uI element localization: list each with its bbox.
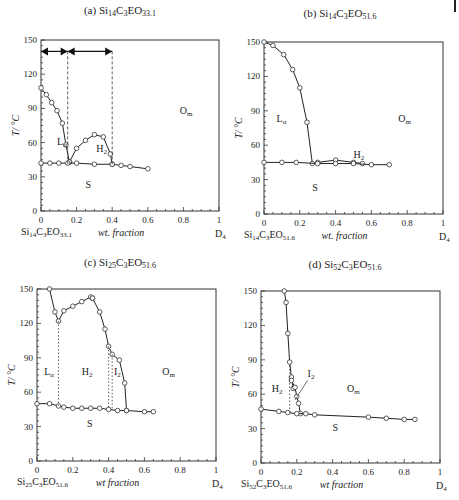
label-leader-line xyxy=(295,380,308,399)
x-axis-label: wt fraction xyxy=(320,479,364,490)
data-point xyxy=(117,358,122,363)
x-tick-label: 0.6 xyxy=(366,218,378,228)
data-point xyxy=(305,120,310,125)
data-point xyxy=(79,406,84,411)
y-axis-label: T/ °C xyxy=(6,364,17,386)
x-tick-label: 0.8 xyxy=(399,467,411,477)
panel-d: (d) Si52C3EO51.600.20.40.60.810306090120… xyxy=(230,258,447,493)
region-label-I2: I2 xyxy=(114,366,121,379)
panel-title: (d) Si52C3EO51.6 xyxy=(309,258,382,272)
y-tick-label: 60 xyxy=(28,138,38,148)
x-tick-label: 0.4 xyxy=(103,465,115,475)
x-tick-label: 0.8 xyxy=(402,218,414,228)
data-point xyxy=(351,161,356,166)
plot-frame xyxy=(41,40,219,211)
data-point xyxy=(282,289,287,294)
data-point xyxy=(97,406,102,411)
data-point xyxy=(298,86,303,91)
data-point xyxy=(35,401,40,406)
data-point xyxy=(55,108,60,113)
region-label-I2: I2 xyxy=(308,368,315,381)
data-point xyxy=(49,100,54,105)
x-tick-label: 0 xyxy=(259,467,264,477)
data-point xyxy=(60,121,65,126)
data-point xyxy=(71,304,76,309)
x-tick-label: 1 xyxy=(217,215,222,225)
data-point xyxy=(142,409,147,414)
phase-boundary-line xyxy=(37,404,153,412)
data-point xyxy=(277,409,282,414)
y-tick-label: 120 xyxy=(20,318,34,328)
x-tick-label: 0 xyxy=(35,465,40,475)
region-label-Om: Om xyxy=(398,113,411,126)
x-tick-label: 1 xyxy=(438,467,443,477)
data-point xyxy=(44,92,49,97)
data-point xyxy=(124,408,129,413)
y-tick-label: 90 xyxy=(28,103,38,113)
data-point xyxy=(333,161,338,166)
data-point xyxy=(290,67,295,72)
data-point xyxy=(287,360,292,365)
y-tick-label: 0 xyxy=(253,458,258,468)
data-point xyxy=(47,287,52,292)
data-point xyxy=(48,161,53,166)
panel-b: (b) Si14C3EO51.600.20.40.60.810306090120… xyxy=(233,7,450,244)
x-tick-label: 0 xyxy=(39,215,44,225)
x-tick-label: 0.4 xyxy=(107,215,119,225)
y-tick-label: 60 xyxy=(248,389,258,399)
data-point xyxy=(284,300,289,305)
y-tick-label: 120 xyxy=(24,69,38,79)
data-point xyxy=(286,410,291,415)
region-label-H2: H2 xyxy=(354,149,365,162)
x-left-component: Si52C3EO51.6 xyxy=(241,478,293,491)
phase-boundary-line xyxy=(284,291,293,388)
data-point xyxy=(103,327,108,332)
data-point xyxy=(262,160,267,165)
y-tick-label: 150 xyxy=(247,37,261,47)
data-point xyxy=(413,417,418,422)
data-point xyxy=(115,408,120,413)
data-point xyxy=(79,299,84,304)
x-left-component: Si14C3EO33.1 xyxy=(21,226,73,239)
y-tick-label: 120 xyxy=(244,320,258,330)
data-point xyxy=(369,162,374,167)
data-point xyxy=(122,381,127,386)
data-point xyxy=(92,132,97,137)
data-point xyxy=(88,406,93,411)
x-tick-label: 0.4 xyxy=(327,467,339,477)
x-tick-label: 0 xyxy=(262,218,267,228)
x-axis-label: wt. fraction xyxy=(98,227,144,238)
y-axis-label: T/ °C xyxy=(230,366,241,388)
panel-a: (a) Si14C3EO33.100.20.40.60.810306090120… xyxy=(10,4,226,241)
phase-boundary-line xyxy=(261,409,415,419)
panel-title: (a) Si14C3EO33.1 xyxy=(84,4,156,18)
data-point xyxy=(151,409,156,414)
panel-c: (c) Si25C3EO51.600.20.40.60.810306090120… xyxy=(6,256,223,491)
y-tick-label: 30 xyxy=(251,175,261,185)
data-point xyxy=(97,310,102,315)
y-tick-label: 120 xyxy=(247,71,261,81)
y-tick-label: 0 xyxy=(256,209,261,219)
data-point xyxy=(296,401,301,406)
region-label-S: S xyxy=(312,182,318,193)
region-label-La: Lα xyxy=(44,366,54,379)
x-right-component: D4 xyxy=(436,480,447,493)
x-right-component: D4 xyxy=(212,478,223,491)
data-point xyxy=(312,413,317,418)
y-tick-label: 30 xyxy=(248,424,258,434)
region-label-S: S xyxy=(87,418,93,429)
data-point xyxy=(262,40,267,45)
data-point xyxy=(293,385,298,390)
x-left-component: Si14C3EO51.6 xyxy=(244,229,296,242)
data-point xyxy=(62,308,67,313)
x-tick-label: 0.8 xyxy=(178,215,190,225)
panel-title: (b) Si14C3EO51.6 xyxy=(304,7,377,21)
data-point xyxy=(271,43,276,48)
y-tick-label: 150 xyxy=(20,284,34,294)
x-right-component: D4 xyxy=(439,231,450,244)
x-axis-label: wt. fraction xyxy=(321,230,367,241)
x-tick-label: 0.8 xyxy=(175,465,187,475)
phase-boundary-line xyxy=(264,42,312,164)
region-label-S: S xyxy=(333,422,339,433)
data-point xyxy=(295,411,300,416)
